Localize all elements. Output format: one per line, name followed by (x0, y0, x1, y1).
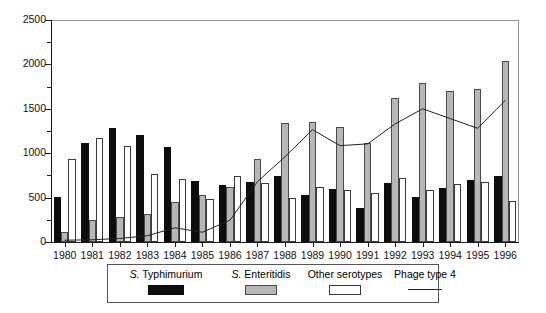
x-axis-tick (202, 242, 203, 247)
x-axis-tick (65, 242, 66, 247)
x-axis-tick (92, 242, 93, 247)
legend-swatch-white-open-rect (329, 285, 361, 295)
legend-label: S. Enteritidis (218, 268, 304, 281)
legend-item-s-typhimurium[interactable]: S. Typhimurium (114, 268, 218, 295)
legend-label: S. Typhimurium (114, 268, 218, 281)
chart-legend: S. TyphimuriumS. EnteritidisOther seroty… (107, 264, 439, 303)
x-axis-tick (450, 242, 451, 247)
x-axis-tick (257, 242, 258, 247)
x-axis-tick (368, 242, 369, 247)
x-axis-label-1996: 1996 (489, 249, 521, 261)
y-axis-label: 1500 (2, 103, 46, 113)
x-axis-tick (340, 242, 341, 247)
x-axis-tick (505, 242, 506, 247)
legend-label: Other serotypes (304, 268, 386, 281)
x-axis-tick (313, 242, 314, 247)
y-axis-label: 500 (2, 192, 46, 202)
y-axis-label: 2000 (2, 58, 46, 68)
y-axis-label: 0 (2, 236, 46, 246)
y-axis-label: 1000 (2, 147, 46, 157)
x-axis-tick (175, 242, 176, 247)
legend-item-phage-type-4[interactable]: Phage type 4 (386, 268, 464, 290)
legend-label: Phage type 4 (386, 268, 464, 281)
x-axis-tick (120, 242, 121, 247)
legend-item-s-enteritidis[interactable]: S. Enteritidis (218, 268, 304, 295)
x-axis-tick (395, 242, 396, 247)
x-axis-tick (147, 242, 148, 247)
x-axis-tick (478, 242, 479, 247)
legend-swatch-black-filled-rect (148, 285, 184, 295)
legend-swatch-line-sample (408, 285, 442, 290)
legend-swatch-gray-filled-rect (245, 285, 277, 295)
x-axis-tick (230, 242, 231, 247)
phage-type-4-line-series (51, 20, 519, 242)
x-axis-tick (423, 242, 424, 247)
phage-type-4-polyline (65, 100, 505, 240)
chart-figure: 05001000150020002500 1980198119821983198… (0, 0, 546, 313)
y-axis-label: 2500 (2, 14, 46, 24)
x-axis-tick (285, 242, 286, 247)
legend-item-other-serotypes[interactable]: Other serotypes (304, 268, 386, 295)
